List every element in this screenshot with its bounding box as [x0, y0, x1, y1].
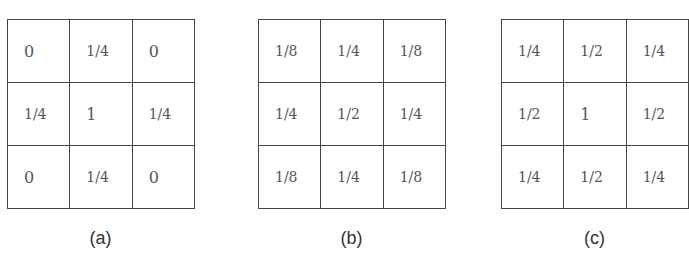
- kernel-grid-a: 0 1/4 0 1/4 1 1/4 0 1/4 0: [7, 19, 195, 209]
- kernel-c-cell-0-0: 1/4: [502, 20, 564, 83]
- kernel-b-cell-0-2: 1/8: [384, 20, 446, 83]
- kernel-b-cell-2-0: 1/8: [259, 146, 321, 209]
- kernel-a-cell-1-2: 1/4: [133, 83, 195, 146]
- kernel-a-cell-1-1: 1: [70, 83, 132, 146]
- kernel-b-cell-2-1: 1/4: [321, 146, 383, 209]
- kernel-b-cell-0-1: 1/4: [321, 20, 383, 83]
- kernel-c-cell-1-0: 1/2: [502, 83, 564, 146]
- kernel-c-cell-2-1: 1/2: [564, 146, 626, 209]
- kernel-a-cell-2-1: 1/4: [70, 146, 132, 209]
- kernel-b-cell-1-0: 1/4: [259, 83, 321, 146]
- kernel-b-cell-1-1: 1/2: [321, 83, 383, 146]
- kernel-a-cell-1-0: 1/4: [8, 83, 70, 146]
- kernel-a-cell-0-1: 1/4: [70, 20, 132, 83]
- kernel-c-cell-1-2: 1/2: [627, 83, 689, 146]
- kernel-a-cell-0-0: 0: [8, 20, 70, 83]
- kernel-a-cell-2-0: 0: [8, 146, 70, 209]
- kernel-c-cell-0-2: 1/4: [627, 20, 689, 83]
- kernel-b-caption: (b): [258, 228, 445, 249]
- kernel-b-cell-2-2: 1/8: [384, 146, 446, 209]
- kernel-a-cell-2-2: 0: [133, 146, 195, 209]
- kernel-b-cell-1-2: 1/4: [384, 83, 446, 146]
- kernel-c-cell-2-0: 1/4: [502, 146, 564, 209]
- kernel-a-caption: (a): [7, 228, 194, 249]
- kernel-grid-c: 1/4 1/2 1/4 1/2 1 1/2 1/4 1/2 1/4: [501, 19, 689, 209]
- kernel-b-cell-0-0: 1/8: [259, 20, 321, 83]
- kernel-a-cell-0-2: 0: [133, 20, 195, 83]
- kernel-grid-b: 1/8 1/4 1/8 1/4 1/2 1/4 1/8 1/4 1/8: [258, 19, 446, 209]
- kernel-c-cell-1-1: 1: [564, 83, 626, 146]
- kernel-c-caption: (c): [501, 228, 688, 249]
- kernel-c-cell-2-2: 1/4: [627, 146, 689, 209]
- kernel-c-cell-0-1: 1/2: [564, 20, 626, 83]
